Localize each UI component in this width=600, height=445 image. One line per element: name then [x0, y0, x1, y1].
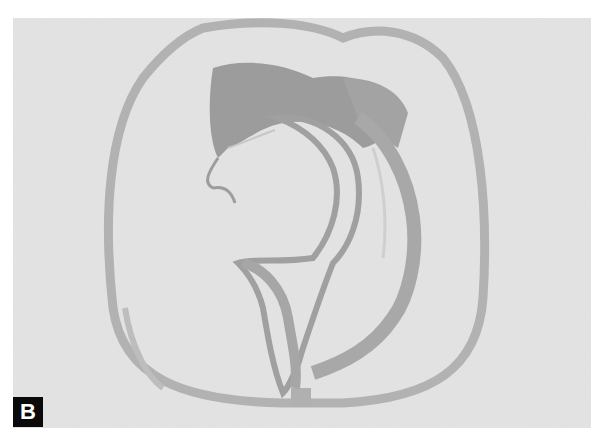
panel-label: B — [13, 397, 43, 427]
micrograph — [13, 18, 591, 428]
tissue-section-illustration — [13, 18, 591, 428]
